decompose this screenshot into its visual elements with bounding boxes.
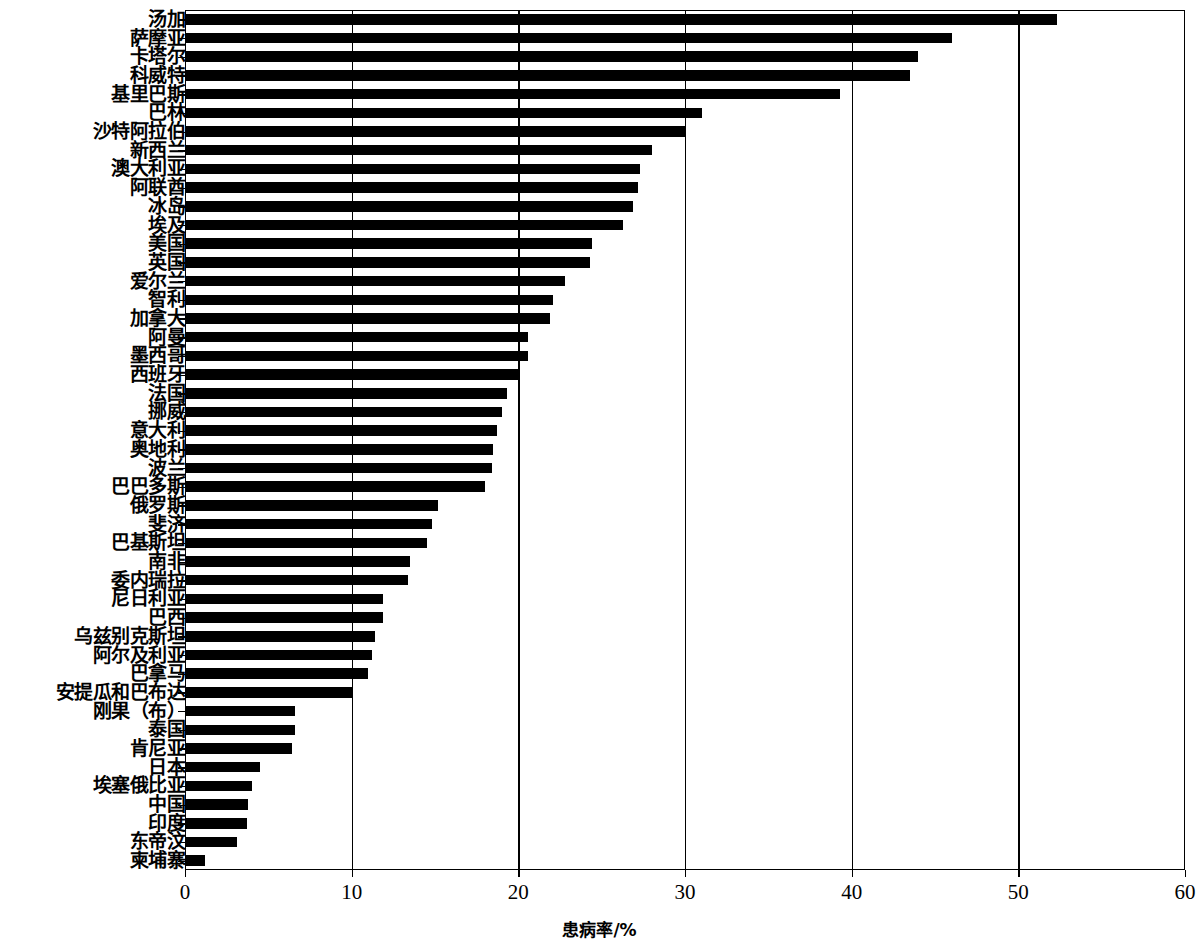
y-axis-label: 汤加: [148, 10, 185, 29]
bar: [185, 538, 427, 549]
bar: [185, 14, 1057, 25]
x-axis-tick-label: 0: [155, 880, 215, 904]
bar: [185, 182, 638, 193]
bar: [185, 500, 438, 511]
bar: [185, 126, 685, 137]
x-axis-tick-label: 10: [322, 880, 382, 904]
x-axis-tick: [185, 870, 186, 877]
bar: [185, 818, 247, 829]
bar: [185, 388, 507, 399]
x-axis-tick-label: 60: [1155, 880, 1199, 904]
bar: [185, 33, 952, 44]
bar: [185, 332, 528, 343]
bar: [185, 837, 237, 848]
bar: [185, 276, 565, 287]
y-axis-label: 奥地利: [130, 440, 186, 459]
gridline: [352, 10, 353, 870]
bar: [185, 89, 840, 100]
bar: [185, 575, 408, 586]
gridline: [518, 10, 519, 870]
bar: [185, 650, 372, 661]
x-axis-title: 患病率/%: [0, 916, 1199, 941]
bar: [185, 70, 910, 81]
bar: [185, 799, 248, 810]
bar: [185, 612, 383, 623]
bar: [185, 725, 295, 736]
bar: [185, 781, 252, 792]
horizontal-bar-chart: 国家名称 汤加萨摩亚卡塔尔科威特基里巴斯巴林沙特阿拉伯新西兰澳大利亚阿联酋冰岛埃…: [0, 0, 1199, 948]
bar: [185, 463, 492, 474]
bar: [185, 668, 368, 679]
bar: [185, 238, 592, 249]
bar: [185, 855, 205, 866]
bar: [185, 519, 432, 530]
bar: [185, 407, 502, 418]
y-axis-label: 柬埔寨: [130, 851, 186, 870]
bar: [185, 295, 553, 306]
bar: [185, 164, 640, 175]
gridline: [1018, 10, 1019, 870]
bar: [185, 257, 590, 268]
x-axis-tick-label: 20: [488, 880, 548, 904]
bar: [185, 706, 295, 717]
bar: [185, 313, 550, 324]
gridline: [852, 10, 853, 870]
bar: [185, 594, 383, 605]
bar: [185, 631, 375, 642]
bar: [185, 481, 485, 492]
bar: [185, 220, 623, 231]
gridline: [685, 10, 686, 870]
bar: [185, 556, 410, 567]
y-axis-label: 乌兹别克斯坦: [74, 627, 185, 646]
bar: [185, 108, 702, 119]
x-axis-tick: [352, 870, 353, 877]
bar: [185, 687, 353, 698]
x-axis-tick-label: 40: [822, 880, 882, 904]
bar: [185, 762, 260, 773]
bar: [185, 351, 528, 362]
bar: [185, 145, 652, 156]
x-axis-tick-label: 50: [988, 880, 1048, 904]
x-axis-tick: [685, 870, 686, 877]
x-axis-tick: [852, 870, 853, 877]
x-axis-tick: [1185, 870, 1186, 877]
bar: [185, 201, 633, 212]
bar: [185, 743, 292, 754]
y-axis-label: 冰岛: [148, 197, 185, 216]
bar: [185, 425, 497, 436]
bar: [185, 51, 918, 62]
x-axis-tick-label: 30: [655, 880, 715, 904]
x-axis-tick: [1018, 870, 1019, 877]
x-axis-tick: [518, 870, 519, 877]
bar: [185, 444, 493, 455]
